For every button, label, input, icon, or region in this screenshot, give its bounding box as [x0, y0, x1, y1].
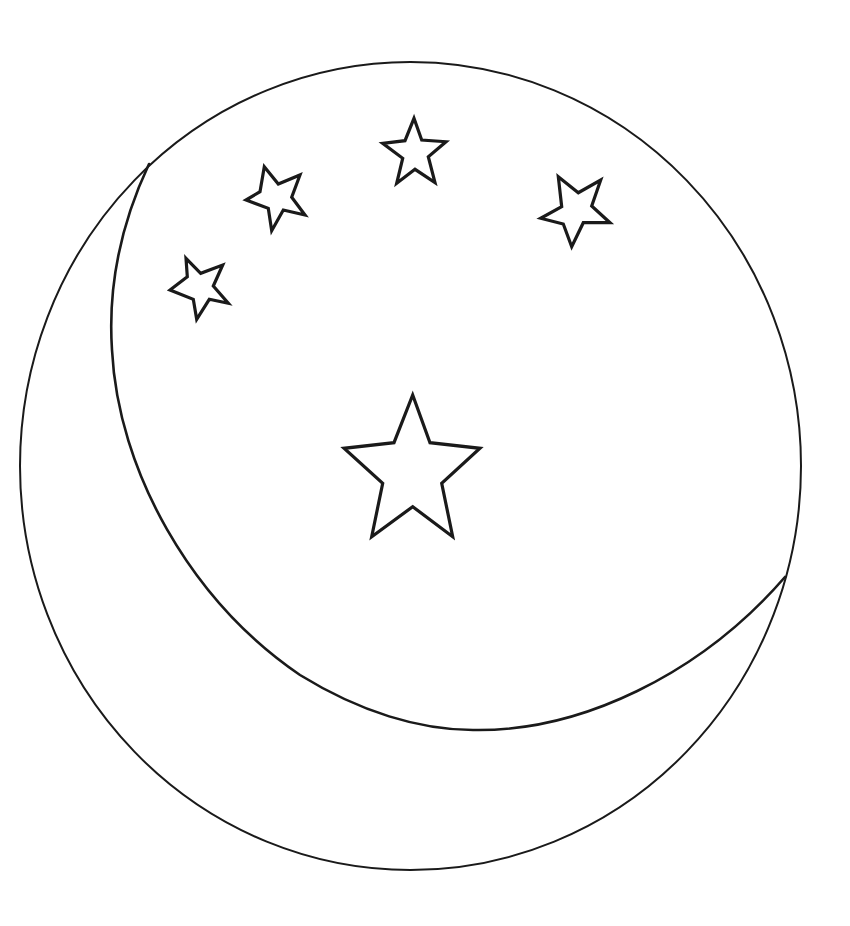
coloring-canvas — [0, 0, 850, 926]
